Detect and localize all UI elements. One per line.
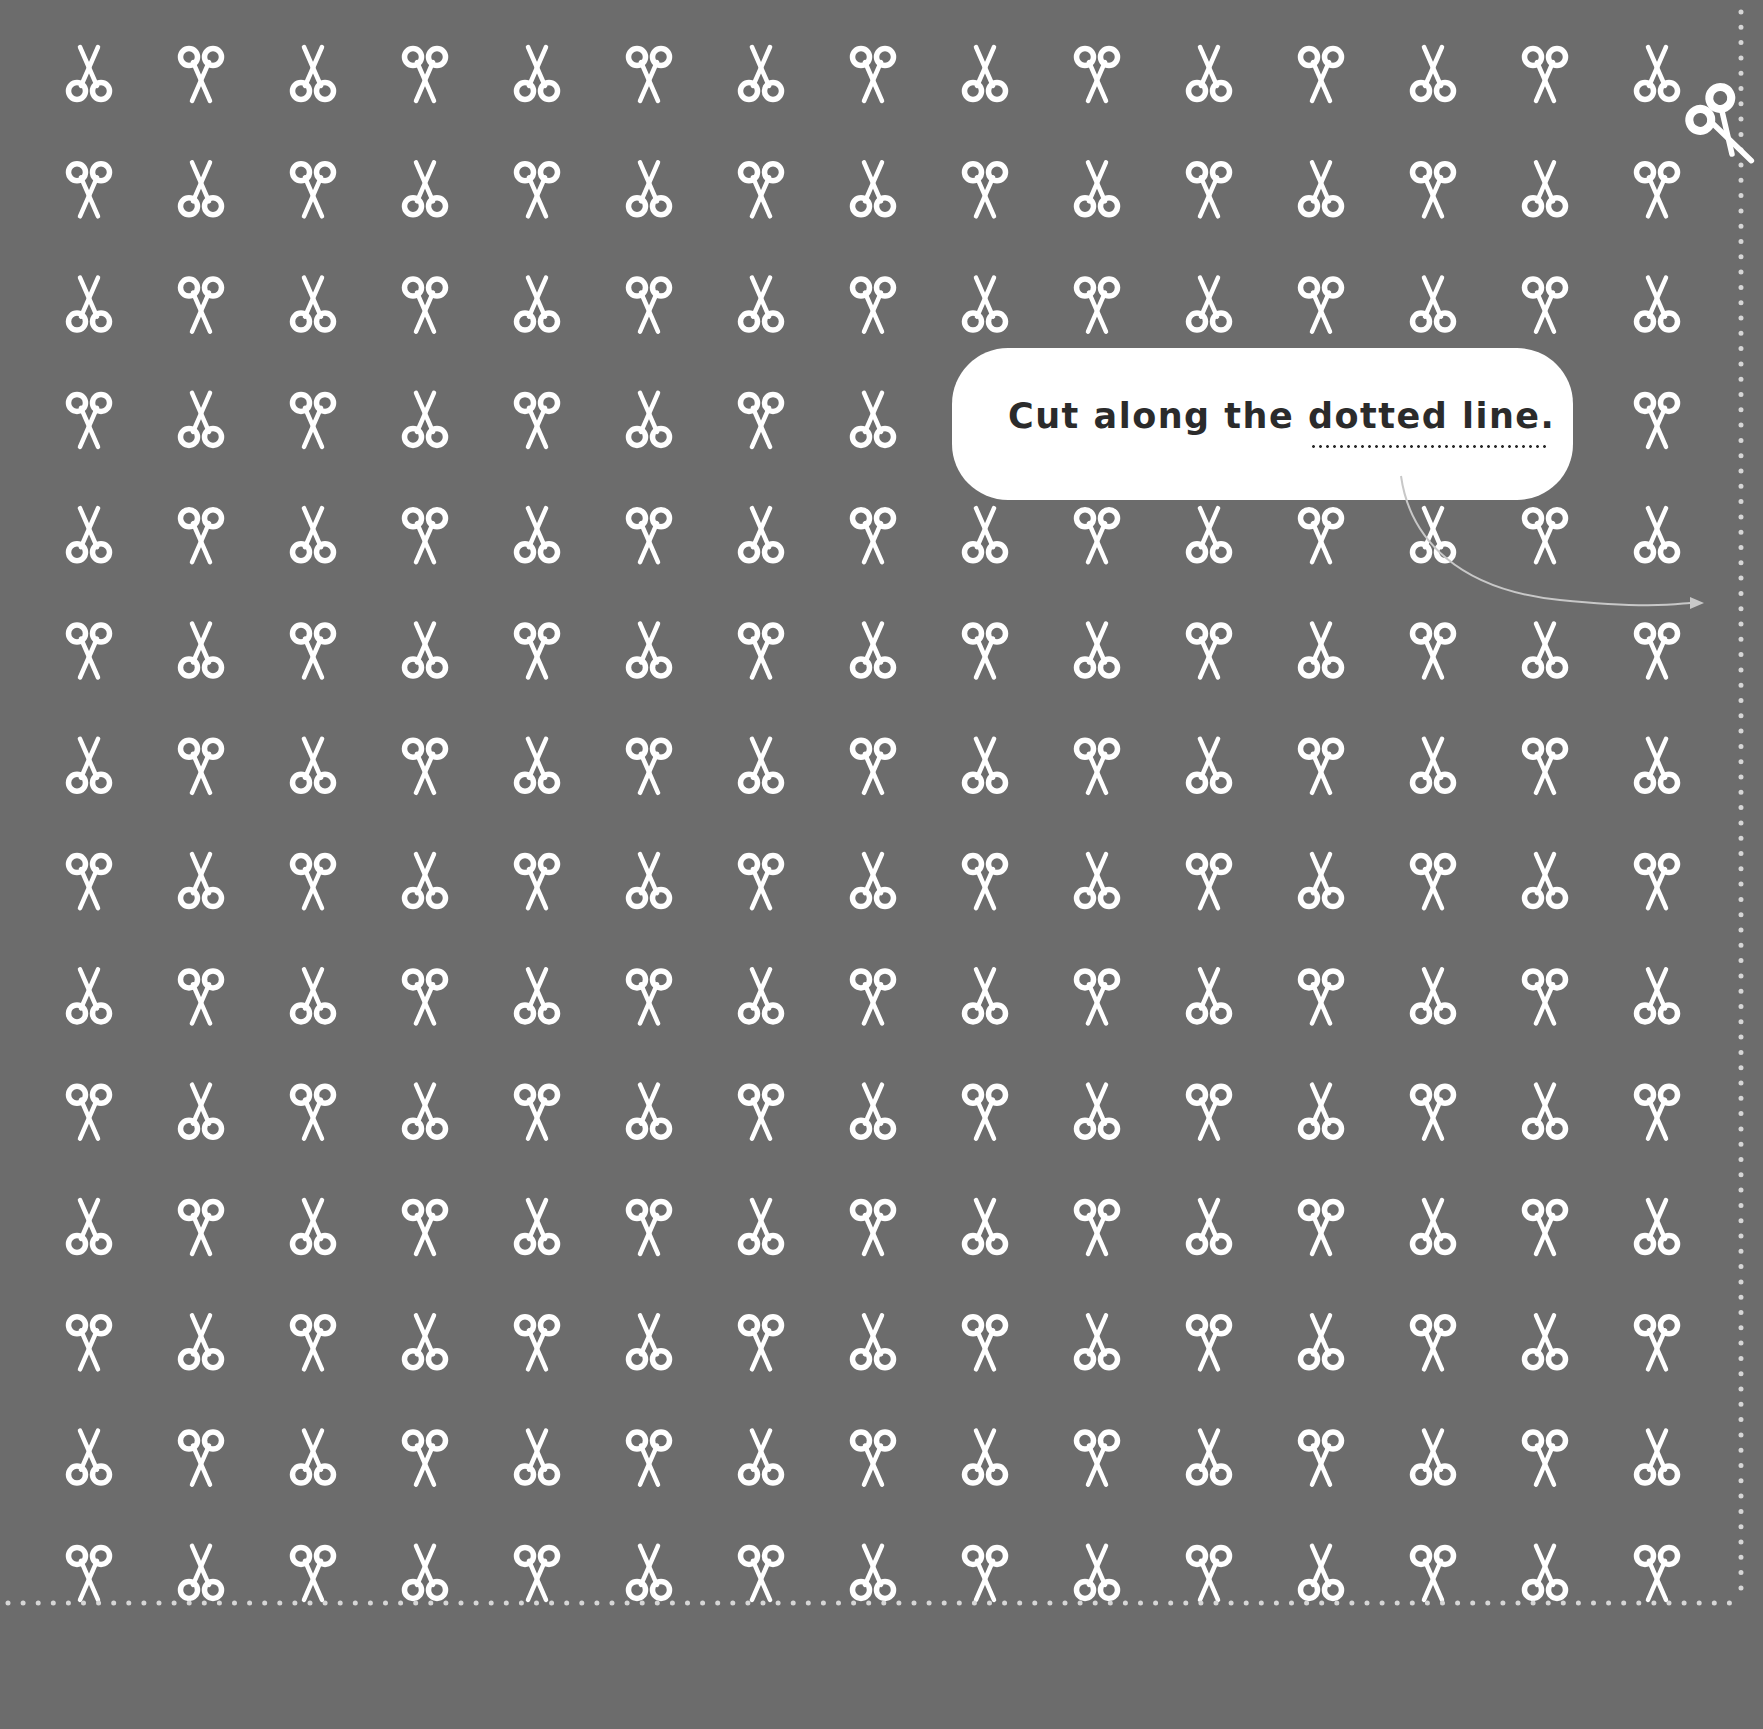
scissors-icon <box>1077 971 1118 1024</box>
scissors-icon <box>517 1200 558 1253</box>
scissors-icon <box>629 1315 670 1368</box>
scissors-icon <box>1413 1086 1454 1139</box>
scissors-icon <box>1301 510 1342 563</box>
scissors-icon <box>965 508 1006 561</box>
scissors-icon <box>741 625 782 678</box>
scissors-icon <box>1301 854 1342 907</box>
scissors-icon <box>853 1085 894 1138</box>
scissors-icon <box>181 1315 222 1368</box>
scissors-icon <box>293 1431 334 1484</box>
scissors-icon <box>181 162 222 215</box>
scissors-icon <box>629 1202 670 1255</box>
scissors-icon <box>1413 508 1454 561</box>
scissors-icon <box>853 740 894 793</box>
scissors-icon <box>69 1547 110 1600</box>
scissors-icon <box>1637 278 1678 331</box>
scissors-icon <box>69 969 110 1022</box>
scissors-pattern <box>0 0 1763 1729</box>
scissors-icon <box>1637 164 1678 217</box>
scissors-icon <box>1413 625 1454 678</box>
scissors-icon <box>629 1432 670 1485</box>
scissors-icon <box>629 624 670 677</box>
scissors-icon <box>741 1086 782 1139</box>
scissors-icon <box>1077 162 1118 215</box>
scissors-icon <box>405 1546 446 1599</box>
scissors-icon <box>517 856 558 909</box>
scissors-icon <box>1301 1202 1342 1255</box>
scissors-icon <box>853 624 894 677</box>
scissors-icon <box>405 49 446 102</box>
scissors-icon <box>629 740 670 793</box>
scissors-icon <box>181 393 222 446</box>
scissors-icon <box>1077 1315 1118 1368</box>
scissors-icon <box>853 854 894 907</box>
scissors-icon <box>69 47 110 100</box>
scissors-icon <box>517 739 558 792</box>
scissors-icon <box>1301 740 1342 793</box>
scissors-icon <box>1525 1546 1566 1599</box>
scissors-icon <box>1189 164 1230 217</box>
scissors-icon <box>1525 971 1566 1024</box>
scissors-icon <box>517 625 558 678</box>
scissors-icon <box>517 1086 558 1139</box>
scissors-icon <box>293 856 334 909</box>
scissors-icon <box>181 510 222 563</box>
scissors-icon <box>181 49 222 102</box>
scissors-icon <box>1189 625 1230 678</box>
scissors-icon <box>293 739 334 792</box>
scissors-icon <box>1301 49 1342 102</box>
scissors-icon <box>1637 1547 1678 1600</box>
scissors-pattern-canvas: Cut along the dotted line. <box>0 0 1763 1729</box>
scissors-icon <box>1189 47 1230 100</box>
scissors-icon <box>629 971 670 1024</box>
scissors-icon <box>1525 624 1566 677</box>
scissors-icon <box>405 971 446 1024</box>
scissors-icon <box>1637 1431 1678 1484</box>
scissors-icon <box>1077 279 1118 332</box>
scissors-icon <box>853 1432 894 1485</box>
scissors-icon <box>405 1085 446 1138</box>
scissors-icon <box>293 1317 334 1370</box>
scissors-icon <box>629 49 670 102</box>
scissors-icon <box>741 164 782 217</box>
scissors-icon <box>69 1317 110 1370</box>
scissors-icon <box>1077 1085 1118 1138</box>
scissors-icon <box>1077 624 1118 677</box>
scissors-icon <box>1077 854 1118 907</box>
scissors-icon <box>1637 394 1678 447</box>
scissors-icon <box>405 740 446 793</box>
scissors-icon <box>1189 1431 1230 1484</box>
scissors-icon <box>293 969 334 1022</box>
scissors-icon <box>853 1202 894 1255</box>
scissors-icon <box>69 1431 110 1484</box>
scissors-icon <box>629 162 670 215</box>
scissors-icon <box>1413 164 1454 217</box>
scissors-icon <box>1525 740 1566 793</box>
scissors-icon <box>1189 508 1230 561</box>
scissors-icon <box>629 279 670 332</box>
scissors-icon <box>1301 1546 1342 1599</box>
scissors-icon <box>1301 279 1342 332</box>
scissors-icon <box>741 856 782 909</box>
scissors-icon <box>853 279 894 332</box>
scissors-icon <box>1637 1086 1678 1139</box>
scissors-icon <box>965 1431 1006 1484</box>
scissors-icon <box>1413 969 1454 1022</box>
callout-text: Cut along the dotted line. <box>1008 396 1555 436</box>
scissors-icon <box>741 1317 782 1370</box>
scissors-icon <box>853 49 894 102</box>
scissors-icon <box>181 854 222 907</box>
scissors-icon <box>1189 969 1230 1022</box>
scissors-icon <box>1525 854 1566 907</box>
scissors-icon <box>517 508 558 561</box>
scissors-icon <box>853 510 894 563</box>
scissors-icon <box>741 47 782 100</box>
scissors-icon <box>741 278 782 331</box>
scissors-icon <box>405 162 446 215</box>
callout-text-emphasis: dotted line. <box>1308 396 1555 436</box>
scissors-icon <box>1637 508 1678 561</box>
scissors-icon <box>181 971 222 1024</box>
scissors-icon <box>405 510 446 563</box>
scissors-icon <box>181 279 222 332</box>
scissors-icon <box>69 856 110 909</box>
